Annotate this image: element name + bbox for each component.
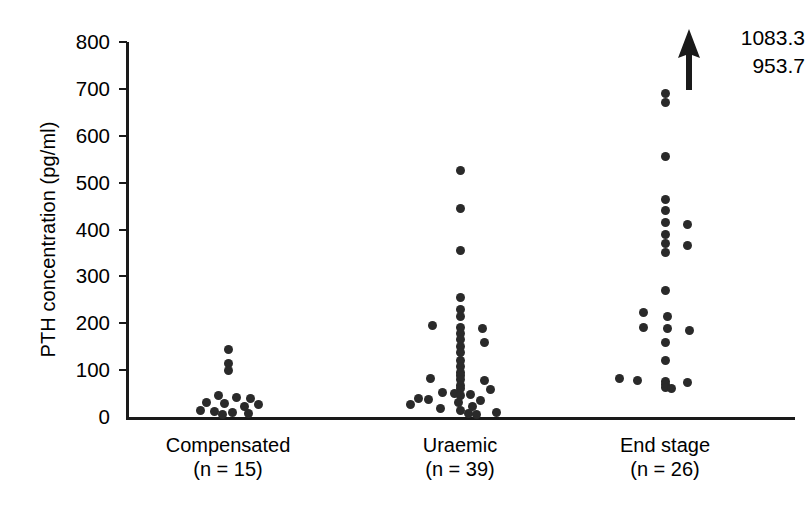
off-scale-value-1: 1083.3 bbox=[709, 24, 805, 52]
data-point bbox=[683, 241, 692, 250]
y-tick-label: 300 bbox=[48, 266, 110, 287]
group-count: (n = 26) bbox=[565, 457, 765, 481]
data-point bbox=[661, 338, 670, 347]
data-point bbox=[456, 312, 465, 321]
data-point bbox=[480, 376, 489, 385]
data-point bbox=[456, 204, 465, 213]
y-tick-label: 800 bbox=[48, 32, 110, 53]
data-point bbox=[228, 408, 237, 417]
scatter-chart: PTH concentration (pg/ml) 01002003004005… bbox=[0, 0, 811, 509]
x-axis-group-label-compensated: Compensated(n = 15) bbox=[128, 433, 328, 482]
data-point bbox=[220, 399, 229, 408]
data-point bbox=[438, 388, 447, 397]
data-point bbox=[685, 326, 694, 335]
group-name: Uraemic bbox=[360, 433, 560, 457]
y-tick-label: 600 bbox=[48, 126, 110, 147]
y-tick-label: 0 bbox=[48, 407, 110, 428]
data-point bbox=[426, 374, 435, 383]
y-tick-mark bbox=[119, 88, 127, 90]
y-axis-line bbox=[126, 42, 129, 419]
data-point bbox=[196, 406, 205, 415]
group-name: End stage bbox=[565, 433, 765, 457]
x-axis-group-label-uraemic: Uraemic(n = 39) bbox=[360, 433, 560, 482]
data-point bbox=[661, 98, 670, 107]
data-point bbox=[244, 409, 253, 418]
y-tick-label: 700 bbox=[48, 79, 110, 100]
data-point bbox=[414, 394, 423, 403]
data-point bbox=[456, 293, 465, 302]
data-point bbox=[232, 393, 241, 402]
y-tick-label: 200 bbox=[48, 313, 110, 334]
y-tick-mark bbox=[119, 369, 127, 371]
off-scale-values: 1083.3 953.7 bbox=[709, 24, 805, 79]
data-point bbox=[683, 378, 692, 387]
y-tick-mark bbox=[119, 275, 127, 277]
data-point bbox=[476, 396, 485, 405]
data-point bbox=[639, 308, 648, 317]
y-tick-mark bbox=[119, 229, 127, 231]
data-point bbox=[661, 206, 670, 215]
data-point bbox=[254, 400, 263, 409]
data-point bbox=[639, 323, 648, 332]
y-tick-mark bbox=[119, 182, 127, 184]
y-tick-mark bbox=[119, 135, 127, 137]
data-point bbox=[683, 220, 692, 229]
x-axis-line bbox=[126, 417, 795, 420]
data-point bbox=[456, 166, 465, 175]
data-point bbox=[661, 152, 670, 161]
data-point bbox=[224, 345, 233, 354]
data-point bbox=[486, 385, 495, 394]
group-count: (n = 15) bbox=[128, 457, 328, 481]
data-point bbox=[661, 239, 670, 248]
data-point bbox=[218, 410, 227, 419]
data-point bbox=[246, 394, 255, 403]
group-name: Compensated bbox=[128, 433, 328, 457]
data-point bbox=[633, 376, 642, 385]
x-axis-group-label-end-stage: End stage(n = 26) bbox=[565, 433, 765, 482]
data-point bbox=[492, 408, 501, 417]
y-tick-label: 500 bbox=[48, 173, 110, 194]
data-point bbox=[406, 400, 415, 409]
data-point bbox=[615, 374, 624, 383]
data-point bbox=[661, 89, 670, 98]
group-count: (n = 39) bbox=[360, 457, 560, 481]
data-point bbox=[456, 246, 465, 255]
data-point bbox=[424, 395, 433, 404]
data-point bbox=[661, 218, 670, 227]
data-point bbox=[466, 390, 475, 399]
data-point bbox=[661, 248, 670, 257]
y-tick-label: 100 bbox=[48, 360, 110, 381]
data-point bbox=[480, 338, 489, 347]
data-point bbox=[478, 324, 487, 333]
y-tick-mark bbox=[119, 41, 127, 43]
data-point bbox=[661, 230, 670, 239]
y-tick-label: 400 bbox=[48, 220, 110, 241]
data-point bbox=[663, 312, 672, 321]
data-point bbox=[661, 195, 670, 204]
data-point bbox=[224, 366, 233, 375]
off-scale-value-2: 953.7 bbox=[709, 52, 805, 80]
data-point bbox=[472, 410, 481, 419]
data-point bbox=[663, 324, 672, 333]
data-point bbox=[436, 404, 445, 413]
data-point bbox=[667, 384, 676, 393]
y-tick-mark bbox=[119, 322, 127, 324]
data-point bbox=[428, 321, 437, 330]
off-scale-arrow-icon bbox=[676, 28, 702, 90]
data-point bbox=[661, 286, 670, 295]
data-point bbox=[661, 356, 670, 365]
